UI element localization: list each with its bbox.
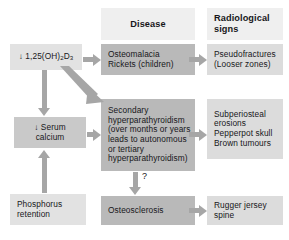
- node-serum-calcium: ↓ Serum calcium: [14, 117, 86, 148]
- arrow-calcitriol-to-serum-calcium: [38, 70, 50, 116]
- node-hyperparathyroid-signs: Subperiosteal erosions Pepperpot skull B…: [207, 99, 283, 159]
- node-rugger-jersey-spine: Rugger jersey spine: [207, 196, 283, 225]
- flowchart-diagram: Disease Radiological signs ↓ 1,25(OH)2D3…: [0, 0, 289, 240]
- node-hpt-signs-line4: Brown tumours: [214, 139, 283, 149]
- node-phosphorus-retention-line2: retention: [17, 210, 86, 220]
- node-osteosclerosis: Osteosclerosis: [101, 196, 195, 225]
- arrow-sec-hpt-to-hpt-signs: [189, 129, 207, 141]
- node-sec-hpt-line6: hyperparathyroidism): [108, 154, 195, 164]
- node-rugger-jersey-line2: spine: [214, 211, 283, 221]
- node-phosphorus-retention: Phosphorus retention: [10, 194, 86, 225]
- header-disease-label: Disease: [130, 19, 165, 30]
- node-osteomalacia-line2: Rickets (children): [108, 60, 195, 70]
- arrow-phosphorus-to-serum-calcium: [38, 150, 50, 193]
- arrow-osteomalacia-to-pseudofractures: [189, 54, 207, 66]
- arrow-osteosclerosis-to-rugger-jersey: [189, 205, 207, 217]
- arrow-calcitriol-to-sec-hpt: [60, 66, 112, 108]
- column-header-radiological-signs: Radiological signs: [207, 8, 283, 40]
- arrow-sec-hpt-to-osteosclerosis: [129, 172, 141, 195]
- header-radiological-line2: signs: [214, 24, 238, 35]
- node-pseudofractures-line2: (Looser zones): [214, 60, 283, 70]
- node-calcitriol-label: ↓ 1,25(OH)2D3: [19, 52, 73, 62]
- uncertain-link-question-mark: ?: [142, 171, 147, 181]
- node-pseudofractures: Pseudofractures (Looser zones): [207, 44, 283, 75]
- column-header-disease: Disease: [101, 8, 195, 40]
- node-osteomalacia: Osteomalacia Rickets (children): [101, 44, 195, 75]
- arrow-calcitriol-to-osteomalacia: [83, 54, 101, 66]
- node-serum-calcium-line2: calcium: [36, 133, 65, 143]
- node-osteosclerosis-line1: Osteosclerosis: [108, 206, 195, 216]
- arrow-serum-calcium-to-sec-hpt: [87, 129, 101, 141]
- node-secondary-hyperparathyroidism: Secondary hyperparathyroidism (over mont…: [101, 99, 195, 171]
- header-radiological-line1: Radiological: [214, 13, 270, 24]
